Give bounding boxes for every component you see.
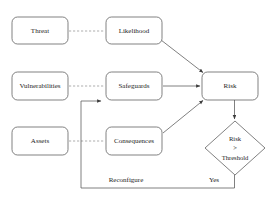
- assets-label: Assets: [31, 137, 50, 145]
- diamond-line-threshold: Threshold: [222, 154, 249, 161]
- edge-labels: Reconfigure Yes: [109, 176, 220, 184]
- node-risk: Risk: [202, 72, 258, 100]
- node-likelihood: Likelihood: [106, 17, 162, 44]
- yes-label: Yes: [209, 176, 219, 184]
- safeguards-label: Safeguards: [118, 82, 149, 90]
- vulnerabilities-label: Vulnerabilities: [19, 82, 60, 90]
- diamond-line-operator: >: [233, 144, 237, 151]
- node-threat: Threat: [12, 17, 68, 44]
- reconfigure-label: Reconfigure: [109, 176, 144, 184]
- edge-likelihood-risk: [161, 40, 203, 73]
- edge-consequences-risk: [163, 101, 203, 134]
- node-safeguards: Safeguards: [106, 72, 162, 100]
- risk-label: Risk: [224, 82, 237, 90]
- diamond-line-risk: Risk: [229, 135, 242, 142]
- diagram-canvas: Threat Likelihood Vulnerabilities Safegu…: [0, 0, 273, 197]
- likelihood-label: Likelihood: [119, 27, 150, 35]
- node-risk-threshold-decision: Risk > Threshold: [205, 121, 265, 175]
- node-assets: Assets: [12, 127, 68, 155]
- node-consequences: Consequences: [106, 127, 162, 155]
- dashed-edges: [69, 31, 105, 141]
- consequences-label: Consequences: [114, 137, 154, 145]
- solid-edges: [81, 40, 235, 188]
- threat-label: Threat: [31, 27, 49, 35]
- risk-flow-diagram: Threat Likelihood Vulnerabilities Safegu…: [0, 0, 273, 197]
- node-vulnerabilities: Vulnerabilities: [12, 72, 68, 100]
